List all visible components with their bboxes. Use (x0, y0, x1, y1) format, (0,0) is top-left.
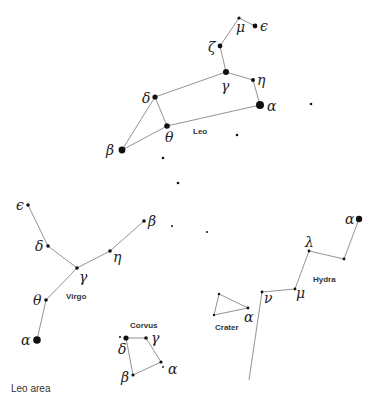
star-leo-theta (164, 123, 170, 129)
star-crater-a2 (213, 314, 215, 316)
star-hydra-h1 (343, 258, 346, 261)
constellation-line-virgo (48, 246, 77, 268)
star-label-gamma: γ (221, 78, 230, 94)
star-label-theta: θ (165, 129, 174, 145)
constellation-line-leo (167, 105, 260, 126)
star-hydra-alpha (356, 216, 362, 222)
star-leo-gamma (223, 69, 229, 75)
constellation-line-crater (214, 308, 248, 315)
star-label-delta: δ (142, 90, 150, 106)
star-corvus-gamma (144, 336, 148, 340)
star-leo-eta (251, 78, 255, 82)
constellation-line-hydra (309, 251, 344, 259)
star-leo-delta (152, 94, 157, 99)
star-corvus-beta (131, 373, 134, 376)
constellation-line-virgo (110, 221, 144, 251)
constellation-line-leo (155, 72, 226, 97)
constellation-name-virgo: Virgo (66, 292, 86, 301)
star-leo-zeta (218, 44, 223, 49)
star-leo-epsilon (253, 24, 258, 29)
constellation-line-leo (155, 97, 167, 126)
figure-caption: Leo area (11, 383, 50, 394)
constellation-name-crater: Crater (215, 323, 239, 332)
star-label-gamma: γ (151, 330, 160, 346)
star-leo-alpha (256, 101, 264, 109)
constellation-line-crater (219, 294, 248, 308)
star-label-mu: μ (236, 19, 245, 35)
star-label-epsilon: ϵ (260, 18, 268, 34)
star-virgo-eta (108, 249, 112, 253)
star-virgo-epsilon (26, 203, 30, 207)
constellation-name-leo: Leo (193, 127, 207, 136)
star-label-alpha: α (345, 211, 355, 227)
field-star (162, 157, 165, 160)
star-label-alpha: α (21, 332, 31, 348)
constellation-line-hydra (295, 251, 309, 289)
field-star (177, 182, 180, 185)
star-virgo-alpha (33, 336, 41, 344)
star-label-alpha: α (267, 98, 277, 114)
star-label-alpha: α (244, 309, 254, 325)
star-labels: μϵζγηαδθβϵδγηβθαδγαβααλμν (16, 18, 355, 385)
star-label-alpha: α (168, 361, 178, 377)
star-corvus-delta (123, 335, 128, 340)
field-star (171, 225, 173, 227)
star-label-delta: δ (118, 341, 126, 357)
star-label-beta: β (120, 369, 129, 385)
star-corvus-alpha (159, 360, 162, 363)
star-label-eta: η (113, 249, 122, 265)
star-virgo-beta (142, 219, 146, 223)
field-star (310, 103, 313, 106)
constellation-line-leo (220, 46, 226, 72)
star-label-gamma: γ (79, 269, 88, 285)
field-star (206, 231, 208, 233)
star-leo-beta (119, 147, 126, 154)
star-label-nu: ν (264, 290, 273, 306)
star-virgo-theta (44, 298, 48, 302)
star-virgo-delta (46, 244, 50, 248)
star-label-lambda: λ (304, 234, 314, 250)
star-crater-a1 (218, 293, 220, 295)
constellation-name-hydra: Hydra (313, 275, 336, 284)
star-label-epsilon: ϵ (16, 197, 24, 213)
star-hydra-nu (261, 291, 264, 294)
constellation-line-virgo (77, 251, 110, 268)
constellation-name-corvus: Corvus (130, 321, 158, 330)
star-label-eta: η (257, 72, 266, 88)
star-label-mu: μ (296, 285, 305, 301)
constellation-line-leo (226, 72, 253, 80)
field-star (162, 366, 164, 368)
star-label-zeta: ζ (208, 39, 217, 55)
field-star (236, 134, 239, 137)
field-star (119, 336, 121, 338)
constellation-lines (28, 18, 359, 380)
star-label-theta: θ (33, 292, 42, 308)
constellation-line-leo (122, 126, 167, 150)
constellation-line-crater (214, 294, 219, 315)
star-hydra-lambda (308, 250, 311, 253)
constellation-line-hydra (249, 292, 262, 380)
star-label-beta: β (147, 213, 156, 229)
star-label-delta: δ (35, 238, 43, 254)
constellation-line-corvus (133, 362, 161, 375)
star-chart: μϵζγηαδθβϵδγηβθαδγαβααλμν LeoVirgoCorvus… (0, 0, 380, 403)
star-label-beta: β (105, 142, 114, 158)
stars (26, 16, 362, 376)
